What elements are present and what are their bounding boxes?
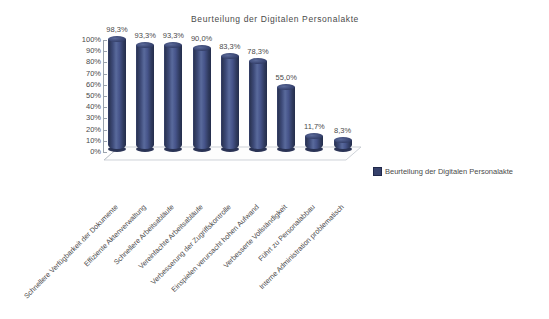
legend-label: Beurteilung der Digitalen Personalakte	[385, 167, 513, 176]
legend-swatch-icon	[373, 167, 382, 176]
legend: Beurteilung der Digitalen Personalakte	[373, 167, 513, 176]
x-axis-category-labels: Schnellere Verfügbarkeit der DokumenteEf…	[0, 0, 549, 319]
chart-container: Beurteilung der Digitalen Personalakte 1…	[0, 0, 549, 319]
